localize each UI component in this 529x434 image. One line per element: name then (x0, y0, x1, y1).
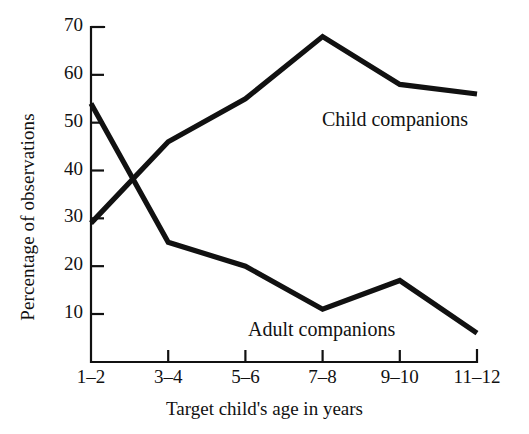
series-line-adult-companions (91, 104, 477, 334)
y-tick-label: 40 (43, 158, 83, 180)
y-axis-ticks (91, 27, 104, 314)
series-annotation-0: Child companions (322, 108, 468, 131)
y-tick-label: 60 (43, 62, 83, 84)
x-tick-label: 9–10 (360, 366, 440, 388)
x-tick-label: 7–8 (283, 366, 363, 388)
x-tick-label: 11–12 (437, 366, 517, 388)
y-tick-label: 30 (43, 205, 83, 227)
x-axis-ticks (168, 350, 400, 362)
x-tick-label: 1–2 (51, 366, 131, 388)
x-tick-label: 5–6 (205, 366, 285, 388)
y-tick-label: 10 (43, 301, 83, 323)
x-tick-label: 3–4 (128, 366, 208, 388)
data-series-group (91, 37, 477, 334)
y-tick-label: 20 (43, 253, 83, 275)
y-tick-label: 70 (43, 14, 83, 36)
line-chart: Percentage of observations Target child'… (0, 0, 529, 434)
axes (91, 27, 477, 362)
series-annotation-1: Adult companions (248, 318, 395, 341)
y-tick-label: 50 (43, 110, 83, 132)
